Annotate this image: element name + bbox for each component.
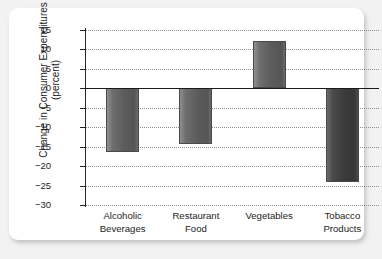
bar (179, 88, 212, 143)
x-axis-label-line: Products (306, 223, 379, 236)
gridline (86, 49, 379, 50)
x-axis-label-line: Beverages (86, 223, 159, 236)
bar (253, 41, 286, 89)
x-axis-label-line: Restaurant (159, 210, 232, 223)
y-axis-tick-label: 5 (11, 64, 51, 74)
x-axis-label-line: Vegetables (233, 210, 306, 223)
y-axis-tick-label: −15 (11, 142, 51, 152)
gridline (86, 186, 379, 187)
gridline (86, 69, 379, 70)
y-axis-title-line2: (percent) (50, 0, 62, 165)
x-axis-category-label: Vegetables (233, 210, 306, 223)
y-axis-tick-label: −25 (11, 181, 51, 191)
figure-container: Change in Consumer Expenditures (percent… (0, 0, 382, 259)
bar (106, 88, 139, 152)
y-axis-tick-label: 10 (11, 45, 51, 55)
plot-area (86, 30, 379, 205)
x-axis-label-line: Food (159, 223, 232, 236)
y-axis-tick-label: −10 (11, 122, 51, 132)
y-axis-tick-label: 15 (11, 25, 51, 35)
x-axis-category-label: RestaurantFood (159, 210, 232, 235)
x-axis-label-line: Alcoholic (86, 210, 159, 223)
bar (326, 88, 359, 182)
zero-line (84, 88, 379, 89)
x-axis-label-line: Tobacco (306, 210, 379, 223)
gridline (86, 205, 379, 206)
x-axis-category-label: AlcoholicBeverages (86, 210, 159, 235)
y-axis-tick-label: −5 (11, 103, 51, 113)
y-axis-tick-label: −30 (11, 200, 51, 210)
x-axis-category-label: TobaccoProducts (306, 210, 379, 235)
y-axis-tick-label: 0 (11, 84, 51, 94)
y-axis-tick-label: −20 (11, 161, 51, 171)
gridline (86, 30, 379, 31)
chart-card: Change in Consumer Expenditures (percent… (9, 8, 364, 240)
